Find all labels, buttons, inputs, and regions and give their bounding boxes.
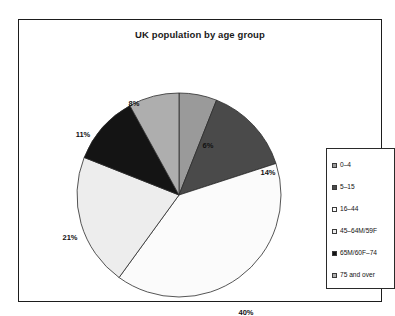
legend-item[interactable]: 65M/60F–74 bbox=[332, 242, 394, 264]
legend-swatch-icon bbox=[332, 185, 337, 190]
legend-item[interactable]: 5–15 bbox=[332, 176, 394, 198]
legend-item[interactable]: 0–4 bbox=[332, 154, 394, 176]
legend-swatch-icon bbox=[332, 163, 337, 168]
pie-slice-label: 6% bbox=[203, 141, 214, 150]
chart-title: UK population by age group bbox=[19, 29, 381, 40]
legend-swatch-icon bbox=[332, 207, 337, 212]
pie-slice-label: 21% bbox=[62, 233, 77, 242]
legend-swatch-icon bbox=[332, 251, 337, 256]
pie-chart: 6%14%40%21%11%8% bbox=[61, 92, 297, 297]
legend-swatch-icon bbox=[332, 229, 337, 234]
chart-frame: UK population by age group 6%14%40%21%11… bbox=[18, 19, 382, 302]
legend-item-list: 0–45–1516–4445–64M/59F65M/60F–7475 and o… bbox=[332, 154, 394, 286]
screenshot-root: UK population by age group 6%14%40%21%11… bbox=[0, 0, 395, 316]
pie-svg bbox=[61, 92, 297, 297]
legend-item-label: 75 and over bbox=[340, 264, 375, 286]
pie-slice-label: 8% bbox=[129, 99, 140, 108]
pie-slice-label: 11% bbox=[76, 130, 91, 139]
legend-swatch-icon bbox=[332, 273, 337, 278]
legend-item-label: 16–44 bbox=[340, 198, 358, 220]
pie-slice-label: 14% bbox=[260, 168, 275, 177]
legend-item[interactable]: 45–64M/59F bbox=[332, 220, 394, 242]
legend-item-label: 5–15 bbox=[340, 176, 355, 198]
pie-slice-label: 40% bbox=[238, 308, 253, 316]
chart-legend: 0–45–1516–4445–64M/59F65M/60F–7475 and o… bbox=[326, 148, 395, 289]
pie-slice-group bbox=[77, 93, 281, 297]
legend-item-label: 65M/60F–74 bbox=[340, 242, 377, 264]
legend-item-label: 0–4 bbox=[340, 154, 351, 176]
legend-item-label: 45–64M/59F bbox=[340, 220, 377, 242]
legend-item[interactable]: 75 and over bbox=[332, 264, 394, 286]
legend-item[interactable]: 16–44 bbox=[332, 198, 394, 220]
